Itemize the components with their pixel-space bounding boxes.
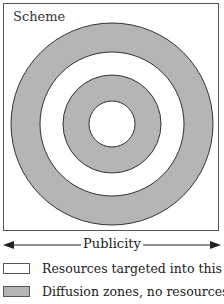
- legend-label: Diffusion zones, no resources: [42, 284, 224, 299]
- gray-swatch: [3, 286, 30, 297]
- concentric-rings: [0, 0, 224, 240]
- legend-item-resources: Resources targeted into this area: [3, 261, 224, 275]
- legend-item-diffusion: Diffusion zones, no resources: [3, 284, 224, 298]
- scheme-title: Scheme: [13, 9, 65, 24]
- publicity-axis-label: Publicity: [0, 236, 224, 251]
- white-swatch: [3, 263, 30, 274]
- legend-label: Resources targeted into this area: [42, 261, 224, 276]
- center-resource-area: [89, 101, 135, 147]
